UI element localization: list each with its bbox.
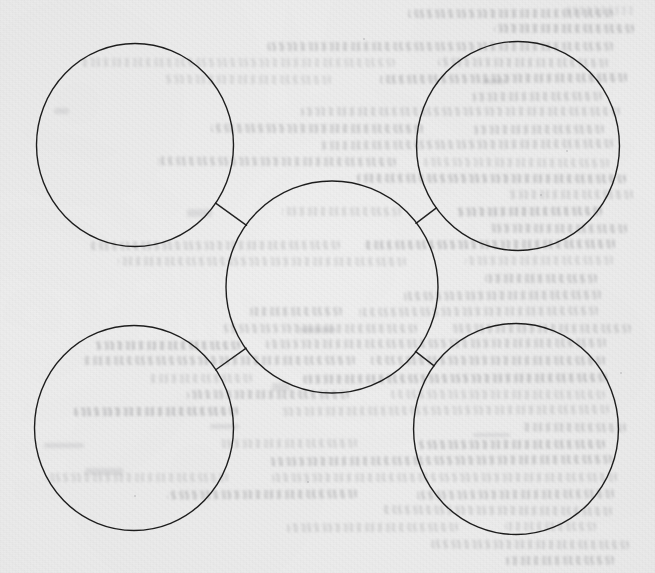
node-group [35,41,620,534]
edge-top-right-to-center [416,208,436,223]
node-circle-top-right [417,41,620,250]
edge-group [216,203,437,370]
concept-map-drawing [0,0,655,573]
edge-bottom-left-to-center [216,348,246,370]
edge-bottom-right-to-center [415,351,434,365]
concept-map-svg [0,0,655,573]
node-circle-bottom-left [35,325,234,530]
node-circle-center [226,181,438,393]
scanned-page [0,0,655,573]
node-circle-bottom-right [414,323,619,534]
edge-top-left-to-center [216,203,247,225]
node-circle-top-left [37,44,234,247]
